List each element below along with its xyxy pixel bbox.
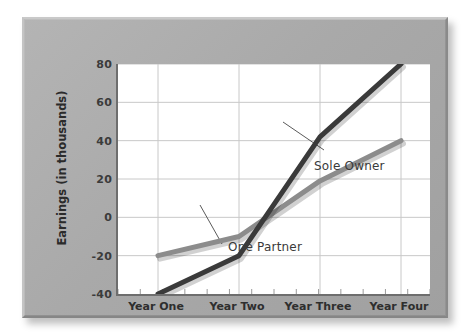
y-tick-label: -40 [92,288,112,301]
y-axis-tick-labels: 806040200-20-40 [76,64,112,294]
x-tick-label: Year Four [370,300,429,313]
y-tick-label: 40 [96,134,112,147]
y-tick-label: 20 [96,173,112,186]
x-tick-label: Year Three [285,300,352,313]
chart-panel: Earnings (in thousands) 806040200-20-40 … [22,17,448,318]
series-label-one-partner: One Partner [228,240,302,254]
y-tick-label: 0 [104,211,112,224]
chart-screenshot: Earnings (in thousands) 806040200-20-40 … [0,0,467,335]
y-tick-label: 60 [96,96,112,109]
y-axis-title: Earnings (in thousands) [55,68,69,268]
plot-area: Sole Owner One Partner [116,64,430,296]
series-label-sole-owner: Sole Owner [314,159,385,173]
series-line-shadow [160,67,403,294]
leader-line-one-partner [200,205,222,244]
y-tick-label: -20 [92,249,112,262]
y-tick-label: 80 [96,58,112,71]
x-axis-tick-labels: Year OneYear TwoYear ThreeYear Four [116,300,428,318]
x-tick-label: Year Two [209,300,264,313]
x-tick-label: Year One [128,300,184,313]
chart-canvas [118,64,430,294]
